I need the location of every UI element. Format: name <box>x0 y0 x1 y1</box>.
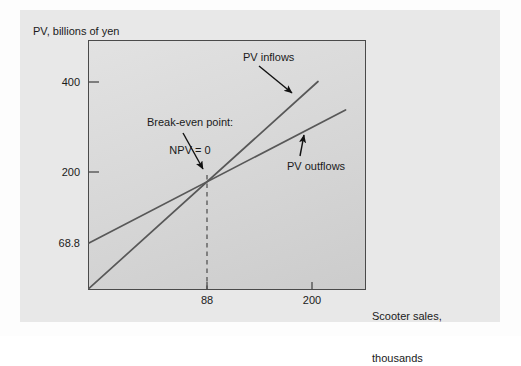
x-tick-label-200: 200 <box>303 294 321 306</box>
x-axis-title-line2: thousands <box>372 351 442 365</box>
y-axis-title: PV, billions of yen <box>33 24 119 38</box>
y-tick-label-68-8: 68.8 <box>30 237 80 249</box>
series-label-pv-outflows: PV outflows <box>287 160 345 172</box>
x-tick-label-88: 88 <box>201 294 213 306</box>
breakeven-annotation-line1: Break-even point: <box>131 115 249 129</box>
x-axis-title: Scooter sales, thousands <box>372 281 442 366</box>
breakeven-annotation: Break-even point: NPV = 0 <box>131 101 249 171</box>
y-tick-label-200: 200 <box>38 166 80 178</box>
series-label-pv-inflows: PV inflows <box>243 51 294 63</box>
x-axis-title-line1: Scooter sales, <box>372 309 442 323</box>
breakeven-annotation-line2: NPV = 0 <box>131 143 249 157</box>
y-tick-label-400: 400 <box>38 76 80 88</box>
